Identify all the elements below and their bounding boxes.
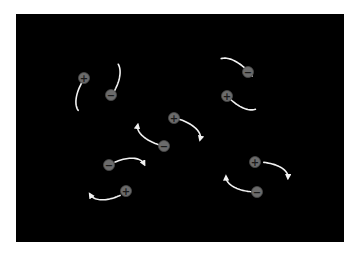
svg-text:−: − <box>244 67 252 78</box>
dipole-top-right: −+ <box>221 58 255 110</box>
orbit-arrow-arc <box>226 177 251 192</box>
dipole-top-left: +− <box>76 64 120 110</box>
negative-charge-icon: − <box>252 187 263 199</box>
svg-text:−: − <box>105 160 113 171</box>
positive-charge-icon: + <box>121 186 132 198</box>
orbit-arrow-arc <box>264 162 288 177</box>
dipole-center: +− <box>138 113 201 153</box>
orbit-arrow-arc <box>179 119 201 139</box>
negative-charge-icon: − <box>159 141 170 153</box>
positive-charge-icon: + <box>250 157 261 169</box>
negative-charge-icon: − <box>106 90 117 102</box>
negative-charge-icon: − <box>104 160 115 172</box>
svg-text:+: + <box>80 73 88 84</box>
dipole-diagram: +−−++−−++− <box>0 0 357 253</box>
orbit-arrow-arc <box>90 194 120 199</box>
svg-text:+: + <box>170 113 178 124</box>
dipole-bottom-right: +− <box>226 157 288 199</box>
positive-charge-icon: + <box>222 91 233 103</box>
positive-charge-icon: + <box>169 113 180 125</box>
positive-charge-icon: + <box>79 73 90 85</box>
svg-text:−: − <box>253 187 261 198</box>
svg-text:+: + <box>251 157 259 168</box>
orbit-arrow-arc <box>115 158 144 164</box>
orbit-arrow-arc <box>138 125 161 145</box>
dipole-bottom-left: −+ <box>90 158 144 200</box>
svg-text:+: + <box>223 91 231 102</box>
svg-text:+: + <box>122 186 130 197</box>
svg-text:−: − <box>107 90 115 101</box>
svg-text:−: − <box>160 141 168 152</box>
negative-charge-icon: − <box>243 67 254 79</box>
